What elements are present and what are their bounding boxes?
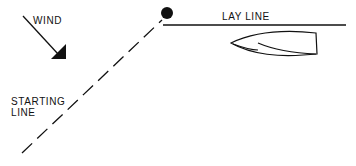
boat-sheer-line — [258, 43, 316, 54]
wind-label: WIND — [33, 15, 62, 26]
starting-line — [22, 20, 162, 153]
boat-icon — [231, 31, 317, 55]
boat-hull-outline — [231, 31, 317, 55]
start-mark-icon — [161, 7, 173, 19]
lay-line-label: LAY LINE — [222, 11, 270, 22]
wind-arrow-head-icon — [51, 44, 66, 59]
starting-line-label-2: LINE — [11, 107, 36, 118]
diagram-canvas: WIND LAY LINE STARTING LINE — [0, 0, 356, 166]
starting-line-label-1: STARTING — [11, 96, 65, 107]
